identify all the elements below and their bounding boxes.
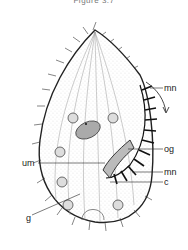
label-og: og xyxy=(164,145,174,154)
label-mn-bottom: mn xyxy=(164,168,177,177)
label-c: c xyxy=(164,178,169,187)
label-mn-top: mn xyxy=(164,84,177,93)
label-g: g xyxy=(26,214,31,223)
label-um: um xyxy=(22,159,35,168)
